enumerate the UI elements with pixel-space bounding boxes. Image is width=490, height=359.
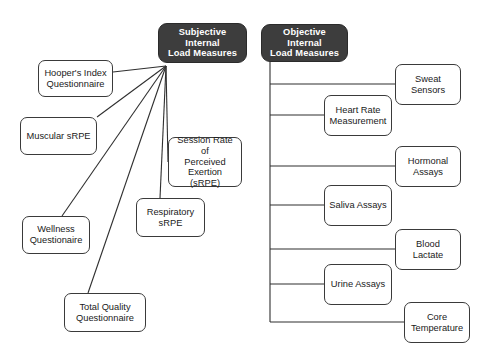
node-saliva-assays-line1: Saliva Assays xyxy=(329,200,386,211)
root-node-objective[interactable]: Objective Internal Load Measures xyxy=(261,24,348,62)
node-heart-rate-measurement[interactable]: Heart Rate Measurement xyxy=(324,95,392,136)
node-core-temperature-line2: Temperature xyxy=(411,323,463,334)
node-session-rate-of-perceived-exertion[interactable]: Session Rate of Perceived Exertion (sRPE… xyxy=(168,137,242,187)
node-blood-lactate-line1: Blood Lactate xyxy=(400,239,456,261)
node-session-rpe-line2: Perceived xyxy=(173,157,237,168)
node-wellness-line2: Questionaire xyxy=(30,235,83,246)
root-objective-line1: Objective Internal xyxy=(266,27,343,49)
node-core-temperature-line1: Core xyxy=(411,312,463,323)
node-respiratory-srpe-line2: sRPE xyxy=(147,218,195,229)
node-session-rpe-line3: Exertion (sRPE) xyxy=(173,167,237,189)
node-sweat-sensors-line1: Sweat Sensors xyxy=(400,74,456,96)
node-hormonal-assays[interactable]: Hormonal Assays xyxy=(395,146,461,187)
node-muscular-srpe-line1: Muscular sRPE xyxy=(26,131,90,142)
node-respiratory-srpe-line1: Respiratory xyxy=(147,207,195,218)
root-subjective-line1: Subjective Internal xyxy=(163,27,242,49)
node-heart-rate-line1: Heart Rate xyxy=(330,105,387,116)
node-core-temperature[interactable]: Core Temperature xyxy=(404,302,470,343)
connector-subjective-to-respiratory-srpe xyxy=(160,66,166,198)
subjective-connector-group xyxy=(62,66,168,293)
node-saliva-assays[interactable]: Saliva Assays xyxy=(324,185,392,226)
node-session-rpe-line1: Session Rate of xyxy=(173,135,237,157)
root-objective-line2: Load Measures xyxy=(266,48,343,59)
node-hormonal-assays-line1: Hormonal xyxy=(408,156,448,167)
connector-subjective-to-total-quality-questionnaire xyxy=(88,66,166,293)
diagram-canvas: Subjective Internal Load Measures Object… xyxy=(0,0,490,359)
node-wellness-line1: Wellness xyxy=(30,224,83,235)
node-sweat-sensors[interactable]: Sweat Sensors xyxy=(395,64,461,105)
node-respiratory-srpe[interactable]: Respiratory sRPE xyxy=(136,198,205,237)
node-urine-assays-line1: Urine Assays xyxy=(331,279,385,290)
node-muscular-srpe[interactable]: Muscular sRPE xyxy=(20,117,97,155)
root-subjective-line2: Load Measures xyxy=(163,48,242,59)
node-hoopers-index-questionnaire[interactable]: Hooper's Index Questionnaire xyxy=(38,60,113,97)
node-hoopers-index-line1: Hooper's Index xyxy=(44,68,106,79)
node-urine-assays[interactable]: Urine Assays xyxy=(324,264,392,305)
root-node-subjective[interactable]: Subjective Internal Load Measures xyxy=(158,23,247,63)
node-total-quality-line2: Questionnaire xyxy=(76,313,134,324)
node-hormonal-assays-line2: Assays xyxy=(408,167,448,178)
node-total-quality-questionnaire[interactable]: Total Quality Questionnaire xyxy=(64,293,146,332)
connector-subjective-to-hoopers-index xyxy=(113,66,166,72)
node-heart-rate-line2: Measurement xyxy=(330,116,387,127)
node-wellness-questionaire[interactable]: Wellness Questionaire xyxy=(22,216,90,254)
node-hoopers-index-line2: Questionnaire xyxy=(44,79,106,90)
node-total-quality-line1: Total Quality xyxy=(76,302,134,313)
node-blood-lactate[interactable]: Blood Lactate xyxy=(395,229,461,270)
